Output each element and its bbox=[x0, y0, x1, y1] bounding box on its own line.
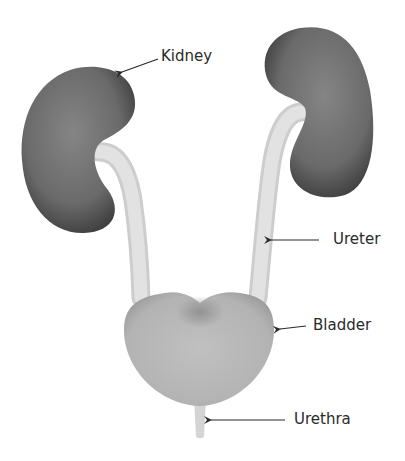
ureter-label: Ureter bbox=[333, 232, 380, 247]
right-ureter-highlight bbox=[258, 112, 302, 298]
kidney-arrow bbox=[122, 59, 158, 72]
kidney-label: Kidney bbox=[161, 49, 212, 64]
bladder-arrow bbox=[280, 326, 306, 329]
bladder-label: Bladder bbox=[313, 318, 371, 333]
bladder-notch-shadow bbox=[176, 296, 224, 328]
urethra-label: Urethra bbox=[294, 412, 351, 427]
